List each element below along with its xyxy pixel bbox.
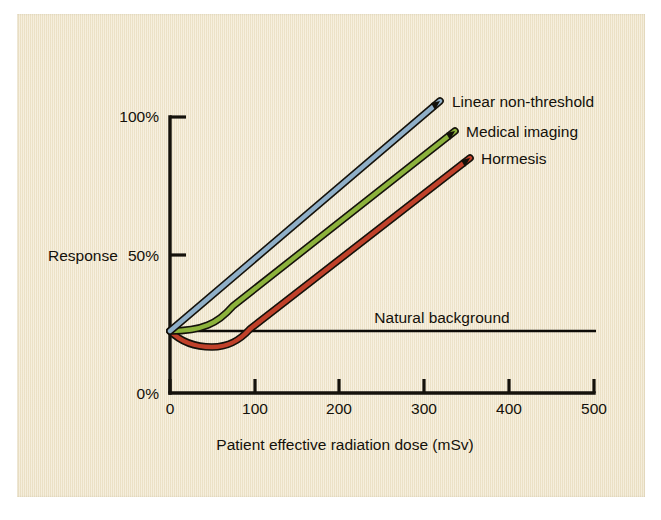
y-tick-label-50: 50%	[128, 247, 159, 264]
y-axis-title: Response	[48, 247, 118, 264]
x-tick-label-500: 500	[581, 400, 607, 417]
y-tick-label-0: 0%	[137, 385, 160, 402]
figure-container: 100% Response 50% 0% 0 100 200 300 400 5…	[0, 0, 661, 520]
curve-medical-imaging	[170, 131, 455, 331]
x-tick-label-0: 0	[166, 400, 175, 417]
curve-endpoint-tips	[431, 101, 470, 167]
x-tick-marks	[170, 379, 594, 393]
curve-medical-imaging-outline	[170, 131, 455, 331]
x-tick-label-300: 300	[411, 400, 437, 417]
x-axis-title: Patient effective radiation dose (mSv)	[216, 436, 473, 453]
x-tick-label-200: 200	[326, 400, 352, 417]
y-tick-marks	[170, 117, 186, 255]
natural-background-label: Natural background	[374, 309, 509, 326]
series-label-medical-imaging: Medical imaging	[466, 123, 578, 140]
x-tick-label-100: 100	[242, 400, 268, 417]
y-tick-label-100: 100%	[119, 108, 159, 125]
series-label-linear-non-threshold: Linear non-threshold	[452, 93, 594, 110]
chart-plot-area: 100% Response 50% 0% 0 100 200 300 400 5…	[0, 0, 661, 520]
series-label-hormesis: Hormesis	[481, 150, 547, 167]
x-tick-label-400: 400	[496, 400, 522, 417]
